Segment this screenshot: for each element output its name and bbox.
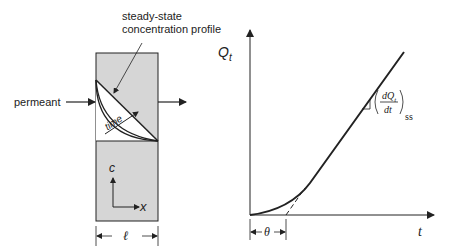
y-axis-label: Qt <box>218 46 232 64</box>
annotation-line-2: concentration profile <box>122 23 221 36</box>
inlet-label: permeant <box>14 96 60 109</box>
lag-time-label: θ <box>264 226 270 239</box>
x-axis-label-t: t <box>418 225 422 238</box>
permeation-curve <box>250 52 404 215</box>
q-vs-t-plot <box>250 30 434 240</box>
slope-denominator: dt <box>384 103 392 116</box>
diagram-canvas <box>0 0 452 252</box>
c-axis-label: c <box>109 162 115 175</box>
slope-subscript: ss <box>405 110 413 123</box>
thickness-label: ℓ <box>123 229 128 242</box>
annotation-line-1: steady-state <box>122 10 182 23</box>
x-axis-label: x <box>140 200 147 213</box>
membrane <box>96 53 158 221</box>
